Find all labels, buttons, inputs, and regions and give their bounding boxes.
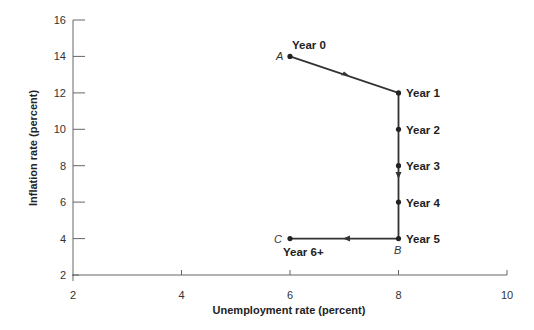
point-year-3 — [396, 163, 401, 168]
point-year-6 — [287, 236, 292, 241]
label-year-5: Year 5 — [406, 233, 440, 245]
chart-canvas: 16 14 12 10 8 6 4 2 2 4 6 8 10 Unemploym… — [0, 0, 534, 330]
label-year-6: Year 6+ — [283, 246, 324, 258]
y-tick-2: 2 — [60, 269, 66, 281]
x-tick-10: 10 — [501, 289, 513, 301]
y-tick-8: 8 — [60, 160, 66, 172]
x-axis-title: Unemployment rate (percent) — [213, 304, 366, 316]
y-tick-12: 12 — [54, 87, 66, 99]
y-tick-6: 6 — [60, 196, 66, 208]
arrow-left-icon — [343, 236, 350, 242]
x-tick-6: 6 — [287, 289, 293, 301]
y-axis-title: Inflation rate (percent) — [27, 90, 39, 206]
x-tick-2: 2 — [70, 289, 76, 301]
y-tick-4: 4 — [60, 233, 66, 245]
x-tick-4: 4 — [178, 289, 184, 301]
label-year-1: Year 1 — [406, 87, 440, 99]
arrow-down-icon — [396, 172, 402, 179]
point-labels: Year 0 Year 1 Year 2 Year 3 Year 4 Year … — [274, 39, 440, 258]
point-year-4 — [396, 200, 401, 205]
point-year-1 — [396, 90, 401, 95]
label-point-b: B — [394, 244, 401, 256]
label-year-4: Year 4 — [406, 197, 440, 209]
x-tick-labels: 2 4 6 8 10 — [70, 289, 513, 301]
y-axis — [73, 20, 85, 276]
label-year-2: Year 2 — [406, 124, 440, 136]
label-point-c: C — [274, 233, 282, 245]
y-tick-labels: 16 14 12 10 8 6 4 2 — [54, 14, 66, 281]
disinflation-path — [287, 54, 401, 242]
x-axis — [72, 270, 507, 281]
point-year-5 — [396, 236, 401, 241]
label-point-a: A — [275, 50, 283, 62]
label-year-3: Year 3 — [406, 160, 440, 172]
y-tick-10: 10 — [54, 123, 66, 135]
y-tick-16: 16 — [54, 14, 66, 26]
y-tick-14: 14 — [54, 50, 66, 62]
point-year-2 — [396, 127, 401, 132]
point-year-0 — [287, 54, 292, 59]
x-tick-8: 8 — [395, 289, 401, 301]
label-year-0: Year 0 — [292, 39, 326, 51]
